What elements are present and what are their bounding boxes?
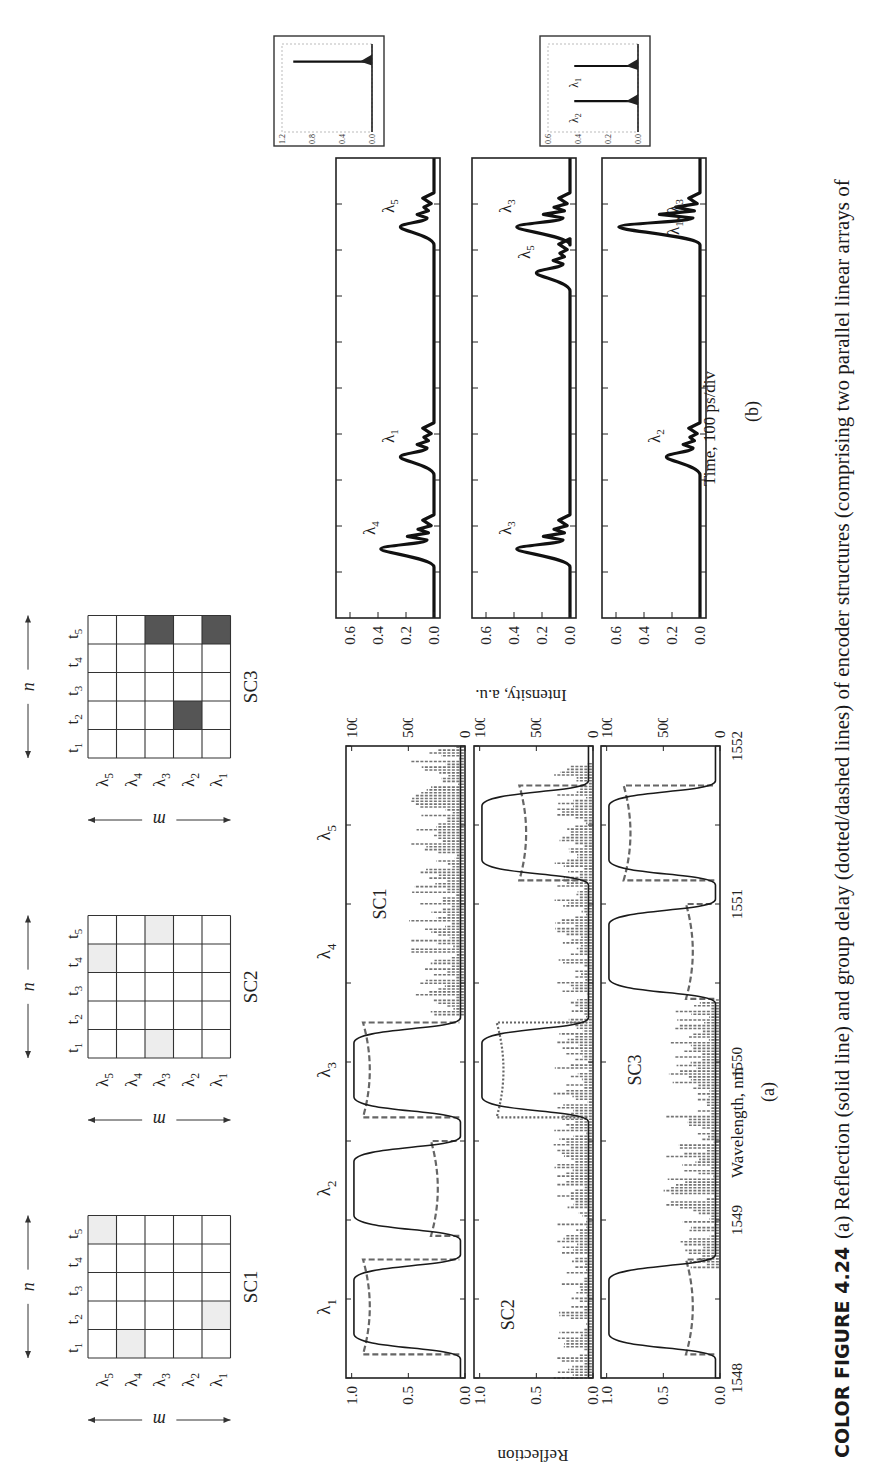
reflection-plot-1: 0.00.51.005001000SC1 (344, 718, 473, 1405)
lambda-label: λ3 (150, 1373, 173, 1387)
y-tick-label: 0.0 (712, 1386, 728, 1405)
reflection-axis-title: Reflection (497, 1446, 568, 1465)
time-slot-label: t1 (63, 1043, 84, 1053)
lambda-label: λ4 (122, 1373, 145, 1387)
time-slot-label: t4 (63, 957, 84, 968)
time-slot-label: t5 (63, 1228, 84, 1239)
plot-frame (474, 746, 593, 1378)
time-slot-label: t1 (63, 1343, 84, 1353)
lambda-label: λ5 (93, 1373, 116, 1387)
caption-text: (a) Reflection (solid line) and group de… (830, 179, 854, 1239)
y-tick-label: 0.4 (506, 626, 522, 645)
pulse-label: λ5 (379, 199, 400, 213)
matrix-sc2: t1t2t3t4t5λ5λ4λ3λ2λ1nmSC2 (18, 916, 261, 1131)
lambda-label: λ3 (150, 773, 173, 787)
arrow-up-icon (88, 1417, 95, 1423)
active-cell (88, 1216, 117, 1245)
intensity-plot-1: 0.00.20.40.6λ4λ1λ50.00.40.81.2 (274, 36, 442, 645)
y-tick-label: 1.0 (344, 1386, 360, 1405)
active-cell (202, 1301, 231, 1330)
pulse-label: λ3 (496, 521, 517, 535)
active-cell (145, 916, 174, 945)
time-slot-label: t4 (63, 1257, 84, 1268)
x-tick-label: 1552 (729, 731, 745, 761)
inset-tick-label: 0.4 (574, 134, 583, 144)
figure-canvas: t1t2t3t4t5λ5λ4λ3λ2λ1nmSC1t1t2t3t4t5λ5λ4λ… (0, 0, 880, 1478)
n-axis-label: n (18, 982, 38, 991)
intensity-plot-2: 0.00.20.40.6λ3λ5λ3 (472, 158, 578, 645)
time-slot-label: t3 (63, 1285, 84, 1296)
lambda-label: λ5 (313, 825, 339, 841)
y-tick-label: 0.4 (370, 626, 386, 645)
caption-lead: COLOR FIGURE 4.24 (831, 1247, 853, 1458)
y-tick-label: 1.0 (599, 1386, 615, 1405)
lambda-label: λ1 (207, 1373, 230, 1387)
y-tick-label: 0.0 (426, 626, 442, 645)
time-slot-label: t5 (63, 928, 84, 939)
lambda-label: λ3 (313, 1062, 339, 1078)
m-axis-label: m (153, 810, 166, 830)
y-tick-label: 0.6 (478, 626, 494, 645)
arrow-down-icon (224, 1417, 231, 1423)
structure-label: SC1 (370, 888, 390, 919)
n-axis-label: n (18, 1282, 38, 1291)
intensity-plot-3: 0.00.20.40.6λ2λ1, λ30.00.20.40.6λ2λ1 (540, 36, 708, 645)
y-tick-label: 0.2 (398, 626, 414, 645)
plot-frame (346, 746, 465, 1378)
x-tick-label: 1549 (729, 1205, 745, 1235)
y2-tick-label: 0 (457, 731, 473, 739)
intensity-axis-title: Intensity, a.u. (475, 686, 566, 705)
lambda-label: λ4 (122, 773, 145, 787)
reflection-plot-3: 0.00.51.005001000SC315481549155015511552 (599, 718, 745, 1405)
plot-frame (472, 158, 576, 618)
y-tick-label: 0.2 (534, 626, 550, 645)
y2-tick-label: 500 (400, 718, 416, 738)
arrow-up-icon (88, 1117, 95, 1123)
y-tick-label: 0.0 (457, 1386, 473, 1405)
pulse-label: λ4 (360, 521, 381, 535)
y-tick-label: 0.5 (400, 1386, 416, 1405)
structure-label: SC2 (498, 1299, 518, 1330)
inset-plot: 0.00.40.81.2 (274, 36, 384, 146)
pulse-label: λ3 (496, 199, 517, 213)
inset-tick-label: 0.2 (604, 134, 613, 144)
inset-tick-label: 0.8 (308, 134, 317, 144)
lambda-label: λ5 (93, 1073, 116, 1087)
arrow-right-icon (25, 1216, 31, 1223)
panel-a-label: (a) (758, 1082, 779, 1102)
inset-tick-label: 0.0 (634, 134, 643, 144)
lambda-label: λ2 (313, 1181, 339, 1197)
matrix-name: SC2 (240, 970, 261, 1003)
inset-tick-label: 0.4 (338, 134, 347, 144)
matrix-sc1: t1t2t3t4t5λ5λ4λ3λ2λ1nmSC1 (18, 1216, 261, 1431)
lambda-label: λ4 (313, 943, 339, 959)
plot-frame (601, 746, 720, 1378)
lambda-label: λ1 (207, 773, 230, 787)
lambda-label: λ2 (179, 773, 202, 787)
time-slot-label: t1 (63, 743, 84, 753)
plot-frame (336, 158, 440, 618)
lambda-label: λ5 (93, 773, 116, 787)
pulse-label: λ2 (645, 429, 666, 443)
time-slot-label: t2 (63, 1014, 84, 1024)
intensity-panel: Intensity, a.u.0.00.20.40.6λ4λ1λ50.00.40… (80, 0, 820, 718)
x-tick-label: 1548 (729, 1363, 745, 1393)
active-cell (88, 944, 117, 973)
matrix-name: SC1 (240, 1270, 261, 1303)
y-tick-label: 0.5 (528, 1386, 544, 1405)
structure-label: SC3 (625, 1054, 645, 1085)
lambda-label: λ2 (179, 1373, 202, 1387)
inset-tick-label: 1.2 (278, 134, 287, 144)
time-slot-label: t3 (63, 985, 84, 996)
y2-tick-label: 1000 (472, 718, 488, 738)
y-tick-label: 1.0 (472, 1386, 488, 1405)
arrow-left-icon (25, 1051, 31, 1058)
y2-tick-label: 1000 (599, 718, 615, 738)
arrow-down-icon (224, 1117, 231, 1123)
active-cell (117, 1330, 146, 1359)
y-tick-label: 0.5 (655, 1386, 671, 1405)
y-tick-label: 0.6 (608, 626, 624, 645)
arrow-up-icon (88, 817, 95, 823)
y-tick-label: 0.2 (664, 626, 680, 645)
arrow-left-icon (25, 751, 31, 758)
